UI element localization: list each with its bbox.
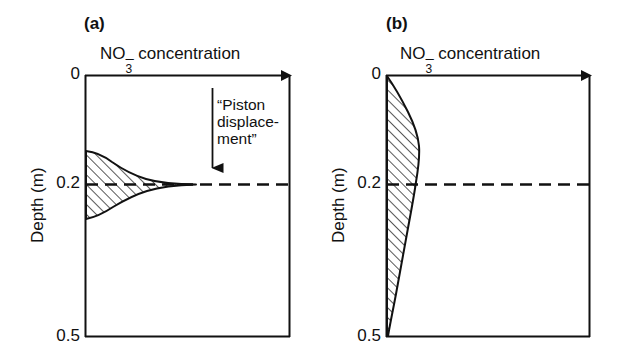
panel-b-tick-0: 0 bbox=[349, 64, 381, 84]
panel-b-concentration-area bbox=[387, 76, 419, 336]
panel-a-tick-0-5: 0.5 bbox=[30, 326, 80, 346]
panel-a-subscript-3: 3 bbox=[126, 63, 133, 75]
panel-a-axis-title-suffix: concentration bbox=[134, 44, 241, 63]
piston-displacement-annotation: “Piston displace- ment” bbox=[217, 96, 279, 147]
panel-b-axis-title: NO–3 concentration bbox=[400, 44, 540, 64]
panel-b-tick-0-5: 0.5 bbox=[331, 326, 381, 346]
panel-a-label: (a) bbox=[84, 14, 105, 34]
panel-a-concentration-area bbox=[86, 151, 196, 219]
figure-nitrate-depth-profiles: (a) (b) NO–3 concentration NO–3 concentr… bbox=[0, 0, 618, 357]
panel-a-tick-0-2: 0.2 bbox=[30, 173, 80, 193]
panel-b-plot bbox=[386, 75, 590, 337]
panel-b-subscript-3: 3 bbox=[426, 63, 433, 75]
panel-a-tick-0: 0 bbox=[48, 64, 80, 84]
panel-a-axis-title-prefix: NO bbox=[100, 44, 126, 63]
panel-a-axis-title: NO–3 concentration bbox=[100, 44, 240, 64]
panel-b-axis-title-prefix: NO bbox=[400, 44, 426, 63]
panel-b-label: (b) bbox=[386, 14, 408, 34]
panel-b-tick-0-2: 0.2 bbox=[331, 173, 381, 193]
panel-b-axis-title-suffix: concentration bbox=[434, 44, 541, 63]
